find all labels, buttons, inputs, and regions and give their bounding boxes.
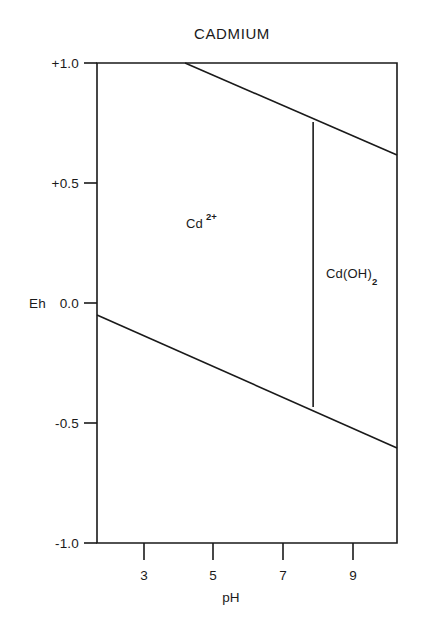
x-axis-label: pH (222, 590, 240, 605)
y-tick-label-neg0.5: -0.5 (55, 416, 79, 431)
y-tick-label-0.5: +0.5 (52, 176, 79, 191)
data-lines (97, 63, 397, 448)
x-tick-label-3: 3 (140, 568, 148, 583)
field-label-cd2plus: Cd 2+ (186, 211, 217, 231)
y-tick-label-neg1.0: -1.0 (55, 536, 79, 551)
water-lower-stability-line (97, 315, 397, 448)
x-tick-label-7: 7 (279, 568, 287, 583)
x-axis-tick-labels: 3 5 7 9 (140, 568, 357, 583)
x-axis-ticks (144, 543, 353, 560)
water-upper-stability-line (185, 63, 397, 155)
chart-title: CADMIUM (194, 25, 270, 42)
field-label-cdoh2: Cd(OH) 2 (326, 266, 377, 287)
x-tick-label-5: 5 (209, 568, 217, 583)
cdoh2-subscript: 2 (372, 276, 377, 287)
y-axis-tick-labels: +1.0 +0.5 0.0 -0.5 -1.0 (52, 56, 79, 551)
cdoh2-base: Cd(OH) (326, 266, 372, 281)
y-tick-label-0.0: 0.0 (60, 296, 79, 311)
cd2plus-superscript: 2+ (206, 211, 217, 222)
chart-page: CADMIUM +1.0 +0.5 0.0 -0.5 -1.0 Eh (0, 0, 421, 639)
y-axis-ticks (84, 63, 97, 543)
y-tick-label-1.0: +1.0 (52, 56, 79, 71)
pourbaix-diagram: CADMIUM +1.0 +0.5 0.0 -0.5 -1.0 Eh (0, 0, 421, 639)
x-tick-label-9: 9 (349, 568, 357, 583)
cd2plus-base: Cd (186, 216, 203, 231)
y-axis-label: Eh (29, 296, 46, 311)
